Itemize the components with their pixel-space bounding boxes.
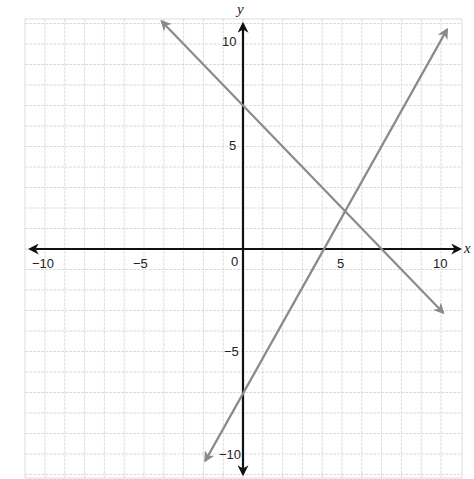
x-tick-neg5: −5 (133, 256, 148, 271)
y-tick-10: 10 (222, 34, 236, 49)
y-tick-neg5: −5 (224, 344, 239, 359)
x-tick-5: 5 (337, 256, 344, 271)
y-tick-5: 5 (229, 138, 236, 153)
coordinate-plane: y x 0 −10 −5 5 10 10 5 −5 −10 (0, 0, 474, 479)
x-tick-neg10: −10 (32, 256, 54, 271)
x-tick-10: 10 (433, 256, 447, 271)
y-axis-label: y (235, 1, 244, 17)
y-tick-neg10: −10 (219, 447, 241, 462)
origin-label: 0 (231, 254, 238, 269)
line-2-increasing (205, 30, 447, 461)
x-axis-label: x (463, 240, 471, 256)
